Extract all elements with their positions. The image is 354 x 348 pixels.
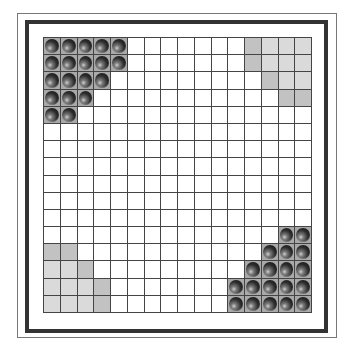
board-cell[interactable] (211, 37, 228, 54)
game-piece-icon[interactable] (62, 56, 76, 70)
board-cell[interactable] (77, 192, 94, 209)
board-cell[interactable] (227, 157, 244, 174)
board-cell[interactable] (294, 295, 311, 312)
camp-cell[interactable] (43, 278, 60, 295)
board-cell[interactable] (261, 278, 278, 295)
board-cell[interactable] (43, 123, 60, 140)
game-piece-icon[interactable] (263, 262, 277, 276)
board-cell[interactable] (77, 37, 94, 54)
board-cell[interactable] (127, 54, 144, 71)
board-cell[interactable] (93, 106, 110, 123)
game-piece-icon[interactable] (112, 39, 126, 53)
board-cell[interactable] (177, 89, 194, 106)
board-cell[interactable] (93, 123, 110, 140)
board-cell[interactable] (194, 106, 211, 123)
board-cell[interactable] (211, 175, 228, 192)
board-cell[interactable] (160, 295, 177, 312)
board-cell[interactable] (177, 260, 194, 277)
game-piece-icon[interactable] (95, 39, 109, 53)
board-cell[interactable] (93, 37, 110, 54)
board-cell[interactable] (43, 192, 60, 209)
board-cell[interactable] (127, 123, 144, 140)
board-cell[interactable] (160, 226, 177, 243)
board-cell[interactable] (77, 226, 94, 243)
board-cell[interactable] (43, 106, 60, 123)
board-cell[interactable] (244, 71, 261, 88)
camp-cell[interactable] (77, 295, 94, 312)
board-cell[interactable] (278, 226, 295, 243)
board-cell[interactable] (93, 192, 110, 209)
game-piece-icon[interactable] (296, 297, 310, 311)
board-cell[interactable] (60, 106, 77, 123)
board-cell[interactable] (110, 37, 127, 54)
board-cell[interactable] (227, 192, 244, 209)
board-cell[interactable] (261, 260, 278, 277)
board-cell[interactable] (60, 192, 77, 209)
board-cell[interactable] (278, 140, 295, 157)
board-cell[interactable] (127, 140, 144, 157)
board-cell[interactable] (43, 37, 60, 54)
board-cell[interactable] (177, 123, 194, 140)
board-cell[interactable] (194, 243, 211, 260)
board-cell[interactable] (127, 278, 144, 295)
board-cell[interactable] (261, 140, 278, 157)
board-cell[interactable] (110, 157, 127, 174)
board-cell[interactable] (110, 192, 127, 209)
board-cell[interactable] (60, 123, 77, 140)
camp-cell[interactable] (77, 278, 94, 295)
board-cell[interactable] (244, 260, 261, 277)
board-cell[interactable] (160, 54, 177, 71)
board-cell[interactable] (144, 278, 161, 295)
board-cell[interactable] (294, 192, 311, 209)
game-piece-icon[interactable] (62, 73, 76, 87)
board-cell[interactable] (211, 278, 228, 295)
board-cell[interactable] (127, 106, 144, 123)
game-piece-icon[interactable] (112, 56, 126, 70)
camp-cell[interactable] (93, 295, 110, 312)
camp-cell[interactable] (43, 260, 60, 277)
board-cell[interactable] (93, 140, 110, 157)
board-cell[interactable] (227, 226, 244, 243)
camp-cell[interactable] (93, 278, 110, 295)
board-cell[interactable] (211, 157, 228, 174)
board-cell[interactable] (227, 278, 244, 295)
board-cell[interactable] (294, 278, 311, 295)
board-cell[interactable] (127, 89, 144, 106)
board-cell[interactable] (144, 123, 161, 140)
board-cell[interactable] (77, 54, 94, 71)
board-cell[interactable] (194, 89, 211, 106)
board-cell[interactable] (160, 37, 177, 54)
board-cell[interactable] (227, 140, 244, 157)
board-cell[interactable] (244, 140, 261, 157)
game-piece-icon[interactable] (229, 280, 243, 294)
board-cell[interactable] (43, 140, 60, 157)
board-cell[interactable] (278, 123, 295, 140)
board-cell[interactable] (227, 71, 244, 88)
board-cell[interactable] (194, 226, 211, 243)
board-cell[interactable] (160, 71, 177, 88)
board-cell[interactable] (227, 37, 244, 54)
board-cell[interactable] (177, 278, 194, 295)
board-cell[interactable] (211, 260, 228, 277)
board-cell[interactable] (278, 295, 295, 312)
board-cell[interactable] (294, 106, 311, 123)
board-cell[interactable] (194, 157, 211, 174)
camp-cell[interactable] (244, 54, 261, 71)
camp-cell[interactable] (261, 71, 278, 88)
board-cell[interactable] (294, 260, 311, 277)
board-cell[interactable] (43, 209, 60, 226)
game-piece-icon[interactable] (296, 262, 310, 276)
board-cell[interactable] (144, 175, 161, 192)
board-cell[interactable] (177, 226, 194, 243)
board-cell[interactable] (43, 175, 60, 192)
board-cell[interactable] (227, 175, 244, 192)
camp-cell[interactable] (294, 89, 311, 106)
board-cell[interactable] (278, 278, 295, 295)
camp-cell[interactable] (294, 71, 311, 88)
board-cell[interactable] (211, 140, 228, 157)
game-piece-icon[interactable] (45, 91, 59, 105)
board-cell[interactable] (261, 295, 278, 312)
board-cell[interactable] (177, 140, 194, 157)
board-cell[interactable] (77, 89, 94, 106)
board-cell[interactable] (110, 243, 127, 260)
